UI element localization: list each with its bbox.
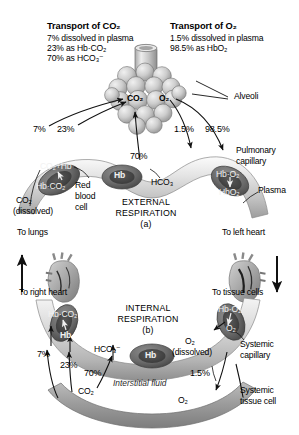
label-to-tissue-cells: To tissue cells: [212, 288, 263, 298]
label-hb-o2-upper: Hb·O₂: [216, 170, 239, 180]
label-o2-dissolved-2: (dissolved): [172, 348, 212, 358]
caption-external-3: (a): [104, 220, 188, 230]
co2-line-3: 70% as HCO₃⁻: [47, 54, 103, 64]
label-hb-o2-lower: Hb·O₂: [218, 305, 241, 315]
pct-lower-70: 70%: [84, 368, 101, 378]
pct-lower-7: 7%: [37, 349, 50, 359]
label-to-right-heart: To right heart: [19, 288, 67, 298]
title-transport-o2: Transport of O₂: [170, 21, 237, 31]
label-rbc-2: blood: [75, 192, 95, 202]
pct-upper-985: 98.5%: [205, 124, 230, 134]
label-o2-dissolved: O₂: [185, 337, 195, 347]
pct-lower-15: 1.5%: [190, 368, 210, 378]
caption-internal-1: INTERNAL: [106, 304, 190, 314]
label-co2-plus-hb: CO₂+Hb: [40, 162, 71, 172]
caption-internal-3: (b): [106, 326, 190, 336]
caption-external-2: RESPIRATION: [104, 209, 188, 219]
label-hb-lower-left: Hb: [60, 331, 71, 341]
label-co2-dissolved-upper-2: (dissolved): [13, 207, 53, 217]
caption-internal-2: RESPIRATION: [106, 315, 190, 325]
label-systemic-cap-1: Systemic: [240, 340, 274, 350]
pct-upper-70: 70%: [130, 151, 147, 161]
o2-line-2: 98.5% as HbO₂: [170, 44, 227, 54]
label-alveolar-co2: CO₂: [127, 94, 143, 104]
label-systemic-cap-2: capillary: [240, 351, 270, 361]
label-to-lungs: To lungs: [17, 228, 48, 238]
label-co2-dissolved-upper: CO₂: [16, 196, 32, 206]
label-hco3-upper: HCO₃: [151, 178, 173, 188]
label-systemic-tissue-1: Systemic: [240, 386, 274, 396]
label-o2-lower-rbc: O₂: [226, 324, 236, 334]
label-rbc-3: cell: [75, 203, 87, 213]
label-systemic-tissue-2: tissue cell: [240, 397, 276, 407]
label-alveolar-o2: O₂: [159, 94, 169, 104]
title-transport-co2: Transport of CO₂: [47, 21, 120, 31]
label-hb-lower-center: Hb: [145, 351, 156, 361]
caption-external-1: EXTERNAL: [104, 198, 188, 208]
label-hb-co2-upper: Hb·CO₂: [36, 182, 65, 192]
respiration-diagram: Transport of CO₂ 7% dissolved in plasma …: [0, 0, 299, 435]
pct-upper-15: 1.5%: [174, 124, 194, 134]
alveoli-leader-lines: [192, 81, 228, 99]
label-tissue-co2: CO₂: [78, 387, 94, 397]
label-hbo2-upper: HbO₂: [219, 188, 239, 198]
label-hco3-lower: HCO₃⁻: [94, 345, 120, 355]
label-pulmonary-2: capillary: [236, 157, 266, 167]
label-interstitial-fluid: Interstitial fluid: [113, 379, 167, 388]
label-pulmonary-1: Pulmonary: [236, 146, 276, 156]
label-alveoli: Alveoli: [234, 92, 258, 102]
pct-lower-23: 23%: [60, 360, 77, 370]
pct-upper-23: 23%: [57, 124, 74, 134]
label-rbc-1: Red: [75, 181, 90, 191]
label-to-left-heart: To left heart: [222, 228, 265, 238]
label-plasma: Plasma: [258, 186, 286, 196]
label-hb-upper-center: Hb: [114, 171, 125, 181]
label-tissue-o2: O₂: [178, 396, 188, 406]
label-hb-co2-lower: Hb·CO₂: [48, 310, 77, 320]
pct-upper-7: 7%: [33, 124, 46, 134]
